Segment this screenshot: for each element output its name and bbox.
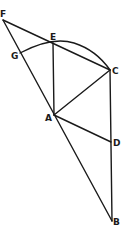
geometry-diagram: F G E C A D B	[0, 0, 125, 226]
label-D: D	[113, 138, 120, 148]
label-B: B	[113, 217, 120, 226]
label-E: E	[50, 32, 56, 42]
label-C: C	[112, 66, 119, 76]
segment-FC	[3, 20, 110, 70]
label-A: A	[45, 113, 52, 123]
arc-GEC	[20, 41, 110, 70]
segment-AC	[54, 70, 110, 115]
segment-FB	[3, 20, 112, 221]
segment-CB	[110, 70, 112, 221]
label-G: G	[11, 51, 18, 61]
segment-EA	[53, 43, 54, 115]
label-F: F	[0, 9, 6, 19]
